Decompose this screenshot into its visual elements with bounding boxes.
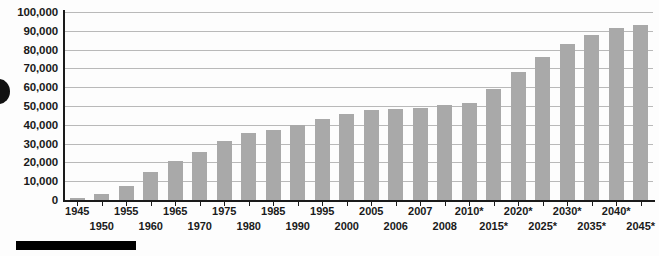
x-axis-tick-label: 2040* (602, 205, 631, 217)
y-axis-tick-label: 60,000 (23, 81, 58, 93)
x-axis-tick-label: 2035* (577, 220, 606, 232)
y-axis-tick-label: 10,000 (23, 175, 58, 187)
x-axis-tick-label: 1985 (261, 205, 285, 217)
bar (486, 89, 501, 200)
x-axis-tick-label: 1945 (65, 205, 89, 217)
x-axis-tick-label: 2008 (433, 220, 457, 232)
bar (388, 109, 403, 200)
bar (462, 103, 477, 200)
x-axis-tick-label: 1955 (114, 205, 138, 217)
y-axis-tick-label: 50,000 (23, 100, 58, 112)
y-axis-tick-label: 90,000 (23, 25, 58, 37)
y-axis-tick-label: 100,000 (17, 6, 58, 18)
x-axis-tick-label: 1960 (139, 220, 163, 232)
x-axis-tick-label: 1975 (212, 205, 236, 217)
y-axis-tick-label: 80,000 (23, 44, 58, 56)
x-axis-tick-label: 1965 (163, 205, 187, 217)
x-axis-tick-label: 2005 (359, 205, 383, 217)
x-axis-tick-label: 2007 (408, 205, 432, 217)
bar (315, 119, 330, 200)
bar (290, 125, 305, 200)
bar (266, 130, 281, 200)
bar (143, 172, 158, 200)
x-axis-tick-label: 2045* (626, 220, 655, 232)
x-axis-tick-label: 2006 (384, 220, 408, 232)
bar (560, 44, 575, 200)
x-axis-tick-label: 2000 (335, 220, 359, 232)
y-axis-tick-label: 20,000 (23, 156, 58, 168)
y-axis-labels: 100,00090,00080,00070,00060,00050,00040,… (0, 0, 62, 200)
bottom-rule (16, 241, 136, 250)
x-axis-tick-label: 1970 (188, 220, 212, 232)
bar (413, 108, 428, 200)
x-axis-tick-label: 2010* (455, 205, 484, 217)
bar (364, 110, 379, 200)
x-axis-labels: 1945195019551960196519701975198019851990… (65, 205, 653, 241)
x-axis-tick-label: 1980 (237, 220, 261, 232)
y-axis-tick-label: 0 (52, 194, 58, 206)
y-axis-tick-label: 70,000 (23, 62, 58, 74)
bar (535, 57, 550, 200)
x-axis-tick-label: 2025* (528, 220, 557, 232)
bar (217, 141, 232, 200)
bar (633, 25, 648, 200)
bar (584, 35, 599, 200)
x-axis-tick-label: 2020* (504, 205, 533, 217)
x-axis-tick-label: 1995 (310, 205, 334, 217)
bar (339, 114, 354, 200)
plot-area (65, 12, 653, 200)
x-axis-tick-label: 2015* (479, 220, 508, 232)
bar (511, 72, 526, 200)
bar (119, 186, 134, 200)
x-axis-tick-label: 1990 (286, 220, 310, 232)
bar (168, 161, 183, 200)
bars-layer (65, 12, 653, 200)
y-axis-tick-label: 40,000 (23, 119, 58, 131)
x-axis-tick-label: 2030* (553, 205, 582, 217)
bar (609, 28, 624, 200)
bar (192, 152, 207, 200)
x-axis-tick-label: 1950 (90, 220, 114, 232)
bar (437, 105, 452, 200)
bar-chart-figure: 100,00090,00080,00070,00060,00050,00040,… (0, 0, 659, 256)
y-axis-tick-label: 30,000 (23, 138, 58, 150)
bar (241, 133, 256, 200)
